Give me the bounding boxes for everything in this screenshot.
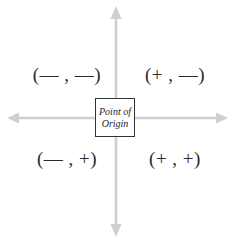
point-of-origin-box: Point of Origin <box>95 98 135 137</box>
quadrant-label-bottom-right: (+ , +) <box>132 148 218 170</box>
arrow-right-icon <box>216 113 228 124</box>
arrow-down-icon <box>111 224 122 237</box>
arrow-left-icon <box>7 113 19 124</box>
quadrant-label-top-right: (+ , —) <box>132 64 218 86</box>
origin-label-line-1: Point of <box>99 106 131 118</box>
arrow-up-icon <box>111 6 122 19</box>
quadrant-label-bottom-left: (— , +) <box>24 148 110 170</box>
quadrant-label-top-left: (— , —) <box>24 64 110 86</box>
origin-label-line-2: Origin <box>102 118 129 130</box>
coordinate-plane-diagram: (— , —) (+ , —) (— , +) (+ , +) Point of… <box>0 0 235 243</box>
